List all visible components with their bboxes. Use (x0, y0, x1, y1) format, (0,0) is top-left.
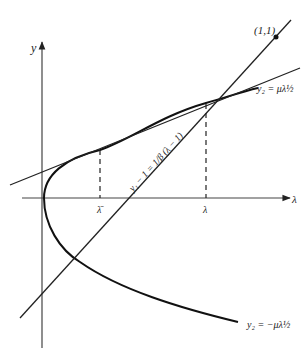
lambda-bar-tick-label: λ̄ (96, 204, 104, 215)
upper-branch-curve (44, 88, 258, 198)
linear-relation-label: y₁ − 1 = 1/β (λ − 1) (126, 131, 185, 195)
intersection-label: (1,1) (254, 24, 275, 37)
lambda-tick-label: λ (202, 204, 208, 215)
upper-branch-label: y₂ = μλ½ (256, 83, 294, 94)
y-axis-label: y (30, 41, 37, 55)
diagram-canvas: y λ (1,1) λ̄ λ y₂ = μλ½ y₂ = −μλ½ y₁ − 1… (0, 0, 302, 354)
lambda-axis-label: λ (291, 193, 297, 205)
lower-branch-label: y₂ = −μλ½ (246, 319, 291, 330)
